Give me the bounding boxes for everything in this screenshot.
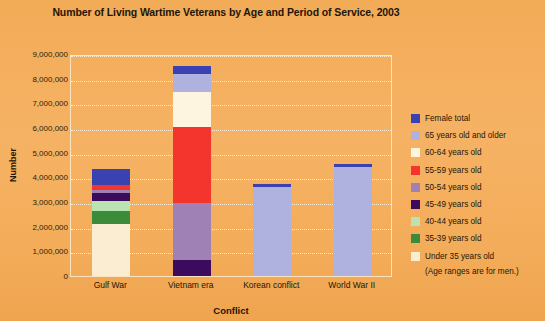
y-axis-tick-label: 8,000,000	[4, 76, 68, 84]
legend-item[interactable]: 45-49 years old	[411, 196, 545, 213]
plot-area	[71, 56, 391, 276]
legend-note: (Age ranges are for men.)	[411, 267, 519, 277]
page-title: Number of Living Wartime Veterans by Age…	[46, 6, 406, 20]
legend-item[interactable]: 65 years old and older	[411, 127, 545, 144]
plot-frame	[70, 55, 392, 277]
legend-item-label: 55-59 years old	[425, 166, 481, 175]
gridline	[71, 81, 391, 82]
bar-segment[interactable]	[253, 184, 291, 187]
legend-swatch-icon	[411, 234, 420, 243]
gridline	[71, 105, 391, 106]
bar-segment[interactable]	[334, 164, 372, 167]
bar-segment[interactable]	[173, 260, 211, 276]
x-axis-tick-label: Gulf War	[70, 280, 151, 291]
bar-segment[interactable]	[334, 167, 372, 276]
x-axis-tick-label: Vietnam era	[151, 280, 232, 291]
legend-item-label: 40-44 years old	[425, 217, 481, 226]
legend-item[interactable]: 40-44 years old	[411, 213, 545, 230]
legend-item-label: 60-64 years old	[425, 148, 481, 157]
bar-segment[interactable]	[92, 169, 130, 185]
legend-item[interactable]: 50-54 years old	[411, 179, 545, 196]
gridline	[71, 56, 391, 57]
legend-swatch-icon	[411, 148, 420, 157]
bar-segment[interactable]	[173, 74, 211, 93]
y-axis-tick-label: 4,000,000	[4, 174, 68, 182]
bar-segment[interactable]	[92, 190, 130, 194]
gridline	[71, 130, 391, 131]
legend-item-label: 35-39 years old	[425, 234, 481, 243]
gridline	[71, 155, 391, 156]
legend-swatch-icon	[411, 217, 420, 226]
legend-swatch-icon	[411, 200, 420, 209]
y-axis-tick-label: 6,000,000	[4, 125, 68, 133]
legend-item[interactable]: 60-64 years old	[411, 144, 545, 161]
bar-segment[interactable]	[92, 201, 130, 211]
x-axis-labels: Gulf WarVietnam eraKorean conflictWorld …	[70, 280, 392, 306]
legend-item-label: 50-54 years old	[425, 183, 481, 192]
legend-item[interactable]: Under 35 years old	[411, 248, 545, 265]
y-axis-tick-label: 5,000,000	[4, 150, 68, 158]
bar-segment[interactable]	[173, 92, 211, 127]
legend-item-label: 65 years old and older	[425, 131, 506, 140]
legend-item[interactable]: 55-59 years old	[411, 162, 545, 179]
y-axis-tick-label: 1,000,000	[4, 248, 68, 256]
bar-segment[interactable]	[173, 66, 211, 73]
legend-swatch-icon	[411, 166, 420, 175]
y-axis-tick-label: 2,000,000	[4, 224, 68, 232]
bar-segment[interactable]	[173, 203, 211, 260]
y-axis-labels: 9,000,0008,000,0007,000,0006,000,0005,00…	[0, 55, 68, 277]
legend-item-label: 45-49 years old	[425, 200, 481, 209]
x-axis-tick-label: World War II	[312, 280, 393, 291]
bar-vietnam-era[interactable]	[173, 66, 211, 276]
x-axis-tick-label: Korean conflict	[231, 280, 312, 291]
y-axis-tick-label: 7,000,000	[4, 100, 68, 108]
legend-swatch-icon	[411, 131, 420, 140]
legend-item[interactable]: 35-39 years old	[411, 230, 545, 247]
bar-segment[interactable]	[92, 224, 130, 276]
chart-page: Number of Living Wartime Veterans by Age…	[0, 0, 545, 321]
legend-swatch-icon	[411, 114, 420, 123]
legend-item[interactable]: Female total	[411, 110, 545, 127]
legend: Female total65 years old and older60-64 …	[411, 110, 545, 265]
legend-item-label: Under 35 years old	[425, 252, 494, 261]
bar-world-war-ii[interactable]	[334, 164, 372, 276]
bar-segment[interactable]	[92, 185, 130, 190]
x-axis-title: Conflict	[70, 305, 392, 316]
legend-swatch-icon	[411, 252, 420, 261]
bar-segment[interactable]	[92, 193, 130, 200]
legend-item-label: Female total	[425, 114, 470, 123]
bar-segment[interactable]	[173, 127, 211, 203]
legend-swatch-icon	[411, 183, 420, 192]
y-axis-tick-label: 3,000,000	[4, 199, 68, 207]
bar-gulf-war[interactable]	[92, 169, 130, 276]
bar-segment[interactable]	[253, 187, 291, 276]
y-axis-tick-label: 9,000,000	[4, 51, 68, 59]
bar-korean-conflict[interactable]	[253, 184, 291, 276]
y-axis-tick-label: 0	[4, 273, 68, 281]
bar-segment[interactable]	[92, 211, 130, 225]
